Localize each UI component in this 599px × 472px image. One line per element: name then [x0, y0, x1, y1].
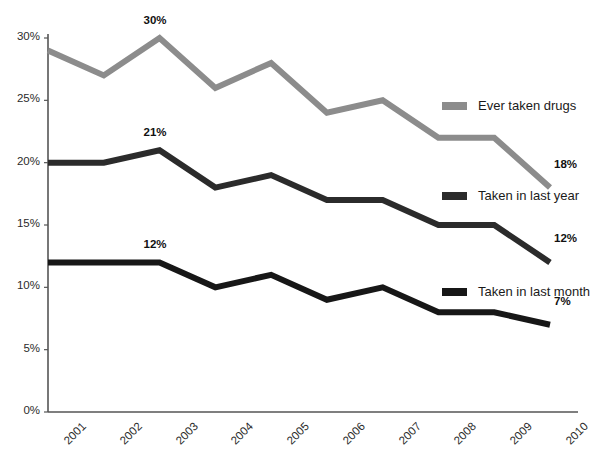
legend-swatch-icon [442, 102, 467, 110]
y-tick-label-15: 15% [0, 217, 40, 229]
legend-label: Ever taken drugs [478, 98, 576, 113]
legend-label: Taken in last year [478, 188, 579, 203]
y-tick-label-0: 0% [0, 404, 40, 416]
legend-label: Taken in last month [478, 284, 590, 299]
point-label-taken-in-last-year-2003: 21% [144, 126, 167, 138]
legend-item-1[interactable]: Taken in last year [442, 188, 579, 203]
series-line-1 [48, 150, 550, 262]
point-label-ever-taken-drugs-2003: 30% [144, 14, 167, 26]
legend-swatch-icon [442, 192, 467, 200]
legend-item-0[interactable]: Ever taken drugs [442, 98, 576, 113]
y-tick-label-20: 20% [0, 155, 40, 167]
legend-swatch-icon [442, 288, 467, 296]
chart-plot-area [0, 0, 599, 472]
y-tick-label-10: 10% [0, 279, 40, 291]
y-tick-label-5: 5% [0, 342, 40, 354]
point-label-taken-in-last-year-2010: 12% [554, 232, 577, 244]
y-tick-label-25: 25% [0, 92, 40, 104]
chart-axes [44, 34, 578, 412]
legend-item-2[interactable]: Taken in last month [442, 284, 590, 299]
point-label-taken-in-last-month-2003: 12% [144, 238, 167, 250]
point-label-ever-taken-drugs-2010: 18% [554, 158, 577, 170]
chart-container: 30%25%20%15%10%5%0% 20012002200320042005… [0, 0, 599, 472]
chart-series-group [48, 38, 550, 325]
y-tick-label-30: 30% [0, 30, 40, 42]
